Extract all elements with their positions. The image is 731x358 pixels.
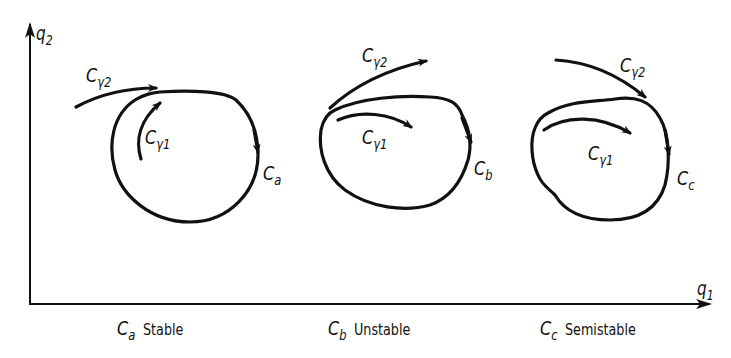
caption-a-sub: a xyxy=(128,327,135,343)
q1-axis-label: q1 xyxy=(697,279,714,302)
caption-a-base: C xyxy=(117,316,128,340)
ca-sub: a xyxy=(274,172,281,188)
caption-c-base: C xyxy=(540,316,551,340)
gamma1-label-c: Cγ1 xyxy=(588,143,613,167)
gamma1-b-base: C xyxy=(362,125,373,149)
trajectory-gamma1-c xyxy=(544,119,630,133)
ca-direction-arrow xyxy=(254,130,258,152)
trajectory-gamma2-a xyxy=(76,88,156,107)
gamma2-b-base: C xyxy=(362,43,373,67)
gamma1-label-b: Cγ1 xyxy=(362,127,387,151)
ca-label: Ca xyxy=(263,163,281,187)
gamma2-c-base: C xyxy=(620,53,631,77)
ca-base: C xyxy=(263,161,274,185)
limit-cycle-cb xyxy=(320,96,470,208)
caption-semistable-text: Semistable xyxy=(565,323,636,338)
caption-stable-text: Stable xyxy=(143,323,183,338)
q2-label-sub: 2 xyxy=(46,32,53,48)
caption-semistable-symbol: Cc xyxy=(540,318,558,342)
trajectory-gamma1-b xyxy=(338,114,411,127)
cb-base: C xyxy=(474,156,485,180)
caption-b-sub: b xyxy=(339,327,346,343)
caption-c-sub: c xyxy=(551,327,557,343)
cb-sub: b xyxy=(485,167,492,183)
caption-b-base: C xyxy=(328,316,339,340)
caption-stable-symbol: Ca xyxy=(117,318,135,342)
gamma2-a-base: C xyxy=(86,63,97,87)
gamma1-a-sub: γ1 xyxy=(156,136,170,152)
gamma1-a-base: C xyxy=(145,125,156,149)
gamma2-label-a: Cγ2 xyxy=(86,65,111,89)
gamma1-c-sub: γ1 xyxy=(599,152,613,168)
panel-c-semistable xyxy=(532,60,669,220)
cc-base: C xyxy=(677,166,688,190)
caption-stable: Ca Stable xyxy=(117,318,190,342)
panel-a-stable xyxy=(76,88,258,222)
cc-direction-arrow xyxy=(665,130,669,154)
gamma1-b-sub: γ1 xyxy=(373,136,387,152)
q1-label-base: q xyxy=(697,277,707,299)
cc-sub: c xyxy=(688,177,694,193)
gamma2-label-c: Cγ2 xyxy=(620,55,645,79)
caption-semistable: Cc Semistable xyxy=(540,318,648,342)
q2-label-base: q xyxy=(36,22,46,44)
caption-unstable-symbol: Cb xyxy=(328,318,346,342)
q1-label-sub: 1 xyxy=(707,287,714,303)
limit-cycle-stability-diagram: q2 q1 Cγ2 Cγ1 Ca Cγ2 Cγ1 Cb Cγ2 Cγ1 Cc C… xyxy=(0,0,731,358)
cb-label: Cb xyxy=(474,158,492,182)
caption-unstable: Cb Unstable xyxy=(328,318,421,342)
q2-axis-label: q2 xyxy=(36,24,53,47)
gamma2-b-sub: γ2 xyxy=(373,54,387,70)
gamma2-label-b: Cγ2 xyxy=(362,45,387,69)
caption-unstable-text: Unstable xyxy=(354,323,410,338)
gamma1-c-base: C xyxy=(588,141,599,165)
gamma2-c-sub: γ2 xyxy=(631,64,645,80)
gamma2-a-sub: γ2 xyxy=(97,74,111,90)
cc-label: Cc xyxy=(677,168,695,192)
gamma1-label-a: Cγ1 xyxy=(145,127,170,151)
limit-cycle-ca xyxy=(112,91,258,222)
panel-b-unstable xyxy=(320,61,471,208)
